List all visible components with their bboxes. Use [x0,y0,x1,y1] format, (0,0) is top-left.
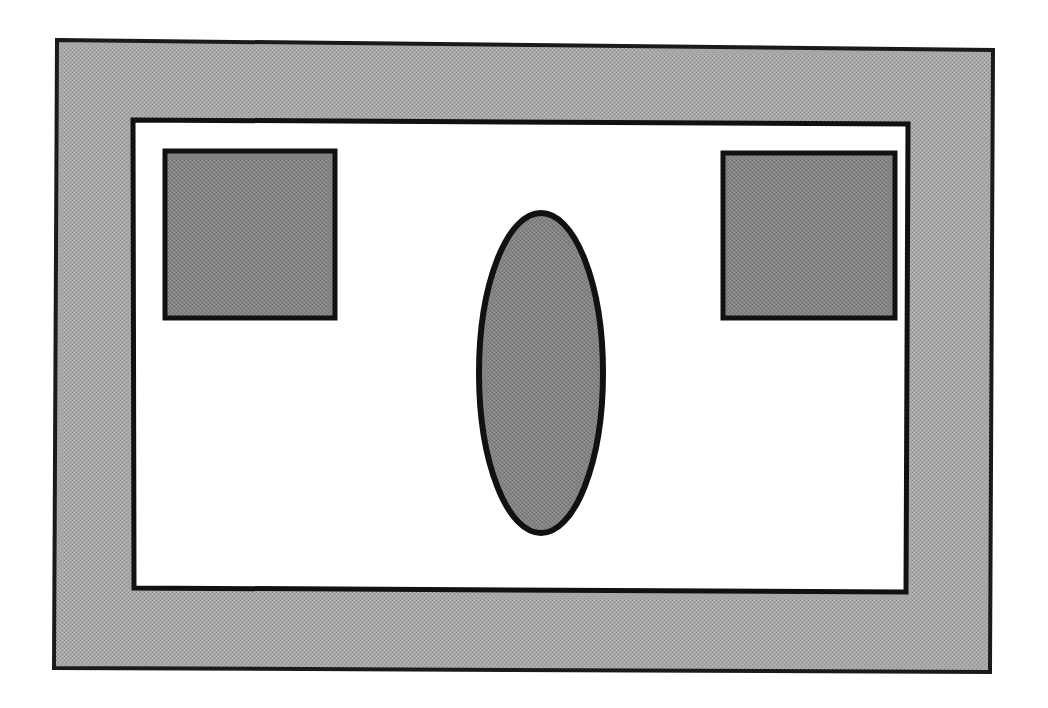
diagram-figure [0,0,1048,708]
diagram-canvas [0,0,1048,708]
center-gray-ellipse [479,213,603,533]
right-gray-rectangle [723,153,895,318]
left-gray-rectangle [165,151,335,318]
